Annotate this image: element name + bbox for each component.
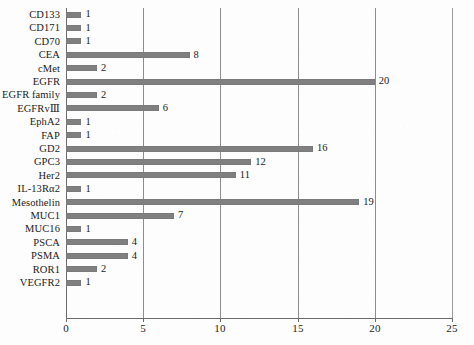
bar xyxy=(66,226,81,232)
bar-value-label: 6 xyxy=(163,101,168,114)
bar xyxy=(66,132,81,138)
bar-row: CD1331 xyxy=(0,8,474,21)
category-label: CD171 xyxy=(0,21,60,34)
bar-row: IL-13Rα21 xyxy=(0,182,474,195)
category-label: GPC3 xyxy=(0,155,60,168)
bar xyxy=(66,92,97,98)
x-tick-label-10: 10 xyxy=(214,322,225,334)
bar-value-label: 1 xyxy=(85,275,90,288)
category-label: cMet xyxy=(0,62,60,75)
bar-row: EphA21 xyxy=(0,115,474,128)
bar xyxy=(66,266,97,272)
bar-value-label: 2 xyxy=(101,61,106,74)
bar-value-label: 2 xyxy=(101,88,106,101)
category-label: PSCA xyxy=(0,236,60,249)
category-label: PSMA xyxy=(0,249,60,262)
bar xyxy=(66,172,236,178)
bar xyxy=(66,186,81,192)
bar-row: MUC17 xyxy=(0,209,474,222)
bar xyxy=(66,12,81,18)
bar xyxy=(66,213,174,219)
category-label: Her2 xyxy=(0,169,60,182)
bar-value-label: 4 xyxy=(132,249,137,262)
bar xyxy=(66,146,313,152)
bar-value-label: 1 xyxy=(85,34,90,47)
bar-row: FAP1 xyxy=(0,129,474,142)
bar-value-label: 12 xyxy=(255,155,266,168)
bar xyxy=(66,119,81,125)
bar xyxy=(66,25,81,31)
bar xyxy=(66,159,251,165)
bar-row: EGFRvⅢ6 xyxy=(0,102,474,115)
bar-value-label: 20 xyxy=(379,74,390,87)
category-label: MUC1 xyxy=(0,209,60,222)
bar-value-label: 16 xyxy=(317,141,328,154)
bar xyxy=(66,38,81,44)
bar-value-label: 1 xyxy=(85,128,90,141)
bar-row: CEA8 xyxy=(0,48,474,61)
bar-row: GD216 xyxy=(0,142,474,155)
bar-value-label: 1 xyxy=(85,222,90,235)
category-label: Mesothelin xyxy=(0,196,60,209)
bar xyxy=(66,239,128,245)
bar xyxy=(66,105,159,111)
bar-row: PSCA4 xyxy=(0,236,474,249)
x-tick-label-25: 25 xyxy=(446,322,457,334)
bar-value-label: 1 xyxy=(85,182,90,195)
x-tick-label-5: 5 xyxy=(140,322,146,334)
bar xyxy=(66,280,81,286)
bar-value-label: 7 xyxy=(178,208,183,221)
category-label: FAP xyxy=(0,129,60,142)
bar-row: EGFR20 xyxy=(0,75,474,88)
x-tick-label-20: 20 xyxy=(369,322,380,334)
bar-chart: 0 5 10 15 20 25 CD1331CD1711CD701CEA8cMe… xyxy=(0,0,474,345)
bar-row: cMet2 xyxy=(0,62,474,75)
category-label: VEGFR2 xyxy=(0,276,60,289)
bar-row: CD1711 xyxy=(0,21,474,34)
bar-value-label: 1 xyxy=(85,115,90,128)
bar-value-label: 1 xyxy=(85,21,90,34)
bar-value-label: 4 xyxy=(132,235,137,248)
bar xyxy=(66,253,128,259)
bar-row: PSMA4 xyxy=(0,249,474,262)
bar-value-label: 8 xyxy=(194,48,199,61)
category-label: CD133 xyxy=(0,8,60,21)
category-label: CD70 xyxy=(0,35,60,48)
bar-value-label: 1 xyxy=(85,7,90,20)
x-axis-line xyxy=(66,318,453,319)
category-label: CEA xyxy=(0,48,60,61)
bar-value-label: 19 xyxy=(363,195,374,208)
bar-row: VEGFR21 xyxy=(0,276,474,289)
bar-row: Her211 xyxy=(0,169,474,182)
bar xyxy=(66,65,97,71)
category-label: EphA2 xyxy=(0,115,60,128)
bar-row: MUC161 xyxy=(0,222,474,235)
x-tick-label-0: 0 xyxy=(63,322,69,334)
category-label: EGFR xyxy=(0,75,60,88)
category-label: EGFRvⅢ xyxy=(0,102,60,115)
bar-row: GPC312 xyxy=(0,155,474,168)
bar xyxy=(66,199,359,205)
x-tick-label-15: 15 xyxy=(292,322,303,334)
bar-value-label: 2 xyxy=(101,262,106,275)
category-label: MUC16 xyxy=(0,222,60,235)
category-label: ROR1 xyxy=(0,263,60,276)
bar-row: CD701 xyxy=(0,35,474,48)
bar-row: ROR12 xyxy=(0,263,474,276)
bar-row: Mesothelin19 xyxy=(0,196,474,209)
category-label: IL-13Rα2 xyxy=(0,182,60,195)
bar-value-label: 11 xyxy=(240,168,250,181)
bar xyxy=(66,52,190,58)
bar xyxy=(66,79,375,85)
category-label: EGFR family xyxy=(0,88,60,101)
category-label: GD2 xyxy=(0,142,60,155)
bar-row: EGFR family2 xyxy=(0,88,474,101)
